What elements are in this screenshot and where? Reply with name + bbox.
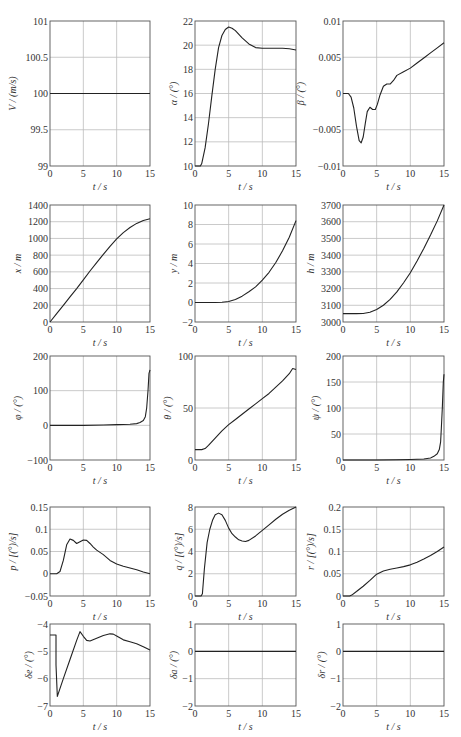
y-tick-label: 0 bbox=[336, 646, 341, 657]
y-axis-label: q / [(°)/s] bbox=[173, 532, 185, 570]
y-tick-label: 0.05 bbox=[324, 568, 342, 579]
y-tick-label: 99.5 bbox=[31, 124, 49, 135]
y-tick-label: −0.005 bbox=[313, 124, 341, 135]
y-tick-label: 3000 bbox=[321, 317, 341, 328]
x-tick-label: 5 bbox=[374, 708, 379, 719]
y-tick-label: 6 bbox=[188, 524, 193, 535]
x-tick-label: 10 bbox=[112, 324, 122, 335]
x-tick-label: 5 bbox=[226, 598, 231, 609]
series-line-delta_e bbox=[50, 632, 150, 697]
subplot-delta_r: 051015−2−101t / sδr / (°) bbox=[316, 619, 449, 733]
x-tick-label: 0 bbox=[193, 708, 198, 719]
x-tick-label: 5 bbox=[81, 324, 86, 335]
x-axis-label: t / s bbox=[93, 475, 108, 486]
plot-frame bbox=[343, 624, 444, 706]
x-tick-label: 5 bbox=[81, 168, 86, 179]
y-axis-label: V / (m/s) bbox=[7, 76, 19, 111]
y-tick-label: −2 bbox=[330, 701, 341, 712]
y-axis-label: y / m bbox=[168, 254, 179, 274]
x-tick-label: 5 bbox=[374, 598, 379, 609]
series-line-psi bbox=[343, 374, 444, 460]
x-tick-label: 0 bbox=[48, 708, 53, 719]
y-tick-label: 100 bbox=[33, 385, 48, 396]
x-tick-label: 15 bbox=[439, 598, 449, 609]
y-tick-label: 150 bbox=[326, 377, 341, 388]
y-tick-label: 0 bbox=[188, 455, 193, 466]
y-tick-label: 8 bbox=[188, 219, 193, 230]
x-tick-label: 10 bbox=[257, 168, 267, 179]
subplot-V: 0510159999.5100100.5101t / sV / (m/s) bbox=[7, 16, 155, 193]
subplot-y: 051015−20246810t / sy / m bbox=[168, 200, 301, 349]
x-tick-label: 10 bbox=[257, 462, 267, 473]
x-tick-label: 0 bbox=[341, 708, 346, 719]
y-tick-label: 0.05 bbox=[31, 546, 49, 557]
x-tick-label: 0 bbox=[48, 324, 53, 335]
y-axis-label: δe / (°) bbox=[23, 651, 35, 679]
subplot-q: 05101502468t / sq / [(°)/s] bbox=[173, 502, 301, 623]
y-tick-label: 0 bbox=[188, 297, 193, 308]
y-axis-label: β / (°) bbox=[295, 81, 307, 106]
y-tick-label: −1 bbox=[182, 673, 193, 684]
x-tick-label: 10 bbox=[405, 324, 415, 335]
x-tick-label: 15 bbox=[439, 462, 449, 473]
x-tick-label: 0 bbox=[341, 168, 346, 179]
y-tick-label: 3200 bbox=[321, 283, 341, 294]
subplot-h: 05101530003100320033003400350036003700t … bbox=[305, 200, 449, 349]
x-tick-label: 5 bbox=[374, 462, 379, 473]
y-axis-label: x / m bbox=[12, 254, 23, 274]
x-axis-label: t / s bbox=[238, 337, 253, 348]
x-tick-label: 0 bbox=[193, 168, 198, 179]
x-tick-label: 0 bbox=[341, 462, 346, 473]
y-tick-label: 101 bbox=[33, 16, 48, 27]
x-tick-label: 15 bbox=[291, 708, 301, 719]
plot-frame bbox=[50, 356, 150, 460]
y-tick-label: 20 bbox=[183, 40, 193, 51]
x-tick-label: 0 bbox=[193, 462, 198, 473]
y-tick-label: 3300 bbox=[321, 266, 341, 277]
y-tick-label: −4 bbox=[37, 619, 48, 630]
figure-grid: 0510159999.5100100.5101t / sV / (m/s)051… bbox=[0, 0, 461, 737]
x-tick-label: 10 bbox=[257, 598, 267, 609]
x-axis-label: t / s bbox=[386, 611, 401, 622]
y-tick-label: 16 bbox=[183, 88, 193, 99]
x-tick-label: 5 bbox=[374, 324, 379, 335]
subplot-phi: 051015−1000100200t / sφ / (°) bbox=[12, 351, 155, 487]
x-axis-label: t / s bbox=[238, 475, 253, 486]
y-tick-label: 200 bbox=[326, 351, 341, 362]
x-axis-label: t / s bbox=[386, 337, 401, 348]
y-tick-label: −100 bbox=[27, 455, 48, 466]
subplot-psi: 051015050100150200t / sψ / (°) bbox=[310, 351, 449, 487]
x-tick-label: 15 bbox=[145, 462, 155, 473]
y-tick-label: 600 bbox=[33, 266, 48, 277]
y-tick-label: 6 bbox=[188, 239, 193, 250]
y-tick-label: 1000 bbox=[28, 233, 48, 244]
y-tick-label: 1200 bbox=[28, 216, 48, 227]
x-tick-label: 5 bbox=[81, 598, 86, 609]
y-tick-label: 0.2 bbox=[329, 502, 342, 513]
series-line-beta bbox=[343, 43, 444, 143]
x-axis-label: t / s bbox=[93, 181, 108, 192]
y-tick-label: 4 bbox=[188, 258, 193, 269]
x-tick-label: 15 bbox=[291, 462, 301, 473]
subplot-alpha: 05101510121416182022t / sα / (°) bbox=[168, 16, 301, 193]
x-tick-label: 15 bbox=[439, 324, 449, 335]
y-tick-label: 50 bbox=[331, 429, 341, 440]
plot-frame bbox=[50, 205, 150, 322]
x-tick-label: 0 bbox=[48, 462, 53, 473]
y-tick-label: −6 bbox=[37, 673, 48, 684]
y-tick-label: 1 bbox=[188, 619, 193, 630]
subplot-p: 051015−0.0500.050.10.15t / sp / [(°)/s] bbox=[7, 502, 155, 623]
x-tick-label: 15 bbox=[145, 168, 155, 179]
y-tick-label: −0.01 bbox=[318, 161, 341, 172]
x-tick-label: 10 bbox=[405, 462, 415, 473]
y-tick-label: 100 bbox=[33, 88, 48, 99]
y-axis-label: h / m bbox=[305, 254, 316, 274]
x-tick-label: 5 bbox=[81, 708, 86, 719]
y-tick-label: 0.005 bbox=[319, 52, 342, 63]
x-axis-label: t / s bbox=[93, 721, 108, 732]
x-tick-label: 5 bbox=[226, 324, 231, 335]
series-line-h bbox=[343, 205, 444, 314]
subplot-theta: 051015050100t / sθ / (°) bbox=[162, 351, 301, 487]
y-tick-label: 10 bbox=[183, 161, 193, 172]
y-tick-label: 800 bbox=[33, 250, 48, 261]
